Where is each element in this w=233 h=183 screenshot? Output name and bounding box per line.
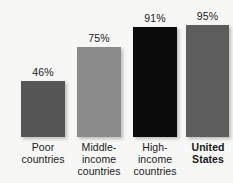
category-label-united-states: United States [174,141,233,165]
chart-plot-area: 46% 75% 91% 95% [0,0,233,140]
bar-group-middle-income-countries: 75% [77,47,121,137]
chart-category-labels: Poor countries Middle- income countries … [0,141,233,183]
bar-group-united-states: 95% [186,25,229,137]
category-label-line: United [174,141,233,153]
category-label-line: States [174,153,233,165]
bar-poor-countries [21,81,65,137]
bar-chart: 46% 75% 91% 95% Poor countries Middle- i… [0,0,233,183]
bar-value-label: 75% [88,33,109,44]
bar-united-states [186,25,229,137]
category-label-line: countries [121,165,189,177]
bar-middle-income-countries [77,47,121,137]
bar-group-poor-countries: 46% [21,81,65,137]
bar-group-high-income-countries: 91% [133,27,177,137]
bar-high-income-countries [133,27,177,137]
bar-value-label: 95% [197,11,218,22]
bar-value-label: 46% [32,67,53,78]
bar-value-label: 91% [144,13,165,24]
